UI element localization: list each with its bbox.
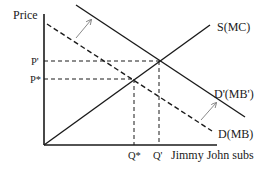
- supply-demand-diagram: Price Jimmy John subs S(MC) D'(MB') D(MB…: [0, 0, 274, 170]
- supply-curve: [44, 25, 210, 145]
- p-prime-label: P': [31, 56, 39, 67]
- q-star-label: Q*: [128, 150, 141, 161]
- shift-arrow-upper: [76, 20, 91, 38]
- y-axis-label: Price: [13, 8, 38, 22]
- x-axis-label: Jimmy John subs: [171, 148, 254, 162]
- p-star-label: P*: [30, 74, 41, 85]
- supply-curve-label: S(MC): [217, 20, 250, 34]
- q-prime-label: Q': [153, 150, 163, 161]
- demand-old-curve-label: D(MB): [218, 127, 253, 141]
- demand-new-curve-label: D'(MB'): [214, 87, 254, 101]
- shift-arrow-lower: [201, 103, 216, 120]
